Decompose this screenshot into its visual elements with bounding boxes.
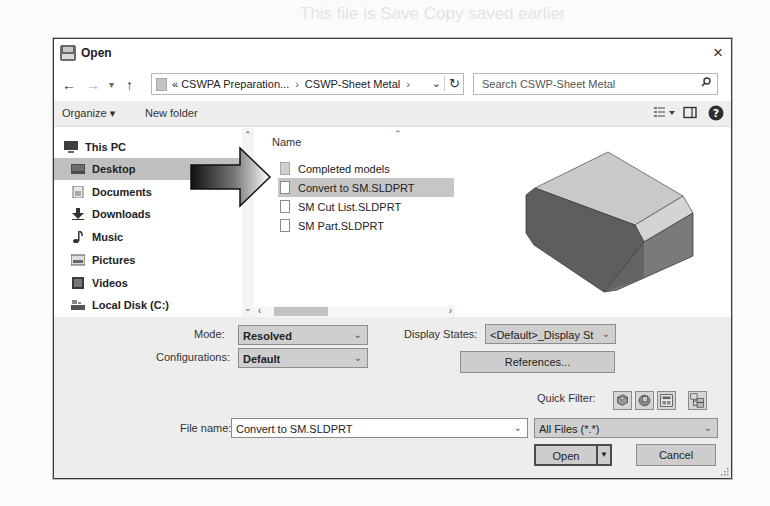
- search-box[interactable]: Search CSWP-Sheet Metal: [473, 73, 718, 95]
- file-name: Completed models: [298, 163, 390, 175]
- svg-text:?: ?: [713, 107, 719, 120]
- preview-pane-icon[interactable]: [683, 106, 697, 120]
- references-button[interactable]: References...: [460, 351, 615, 373]
- chevron-down-icon: ⌄: [354, 352, 362, 363]
- help-icon[interactable]: ?: [708, 105, 724, 121]
- file-name: SM Part.SLDPRT: [298, 220, 384, 232]
- music-icon: [71, 231, 85, 243]
- file-row-completed-models[interactable]: Completed models: [278, 159, 454, 178]
- close-button[interactable]: ×: [713, 43, 723, 63]
- scroll-left-icon[interactable]: ‹: [258, 305, 261, 316]
- chevron-down-icon: ⌄: [602, 328, 610, 339]
- configurations-value: Default: [243, 353, 280, 365]
- mode-value: Resolved: [243, 330, 292, 342]
- nav-item-videos[interactable]: Videos: [54, 272, 242, 294]
- display-states-value: <Default>_Display St: [490, 329, 593, 341]
- breadcrumb-separator[interactable]: ›: [295, 78, 299, 90]
- dialog-title: Open: [81, 46, 112, 60]
- filter-drawings-icon[interactable]: [657, 391, 676, 410]
- navigation-bar: ← → ▾ ↑ « CSWPA Preparation...›CSWP-Shee…: [54, 69, 731, 101]
- file-row-sm-cut-list[interactable]: SM Cut List.SLDPRT: [278, 197, 454, 216]
- pictures-icon: [71, 254, 85, 266]
- folder-icon: [156, 78, 167, 91]
- back-button[interactable]: ←: [62, 77, 76, 93]
- chevron-down-icon[interactable]: ⌄: [514, 422, 522, 433]
- folder-icon: [280, 162, 290, 175]
- file-name-input[interactable]: Convert to SM.SLDPRT ⌄: [231, 418, 528, 438]
- filter-top-level-assemblies-icon[interactable]: [688, 391, 707, 410]
- chevron-down-icon: ⌄: [354, 329, 362, 340]
- nav-item-label: Documents: [92, 186, 152, 198]
- background-text: This file is Save Copy saved earlier: [300, 4, 566, 24]
- scroll-down-icon[interactable]: ⌄: [244, 303, 252, 313]
- part-file-icon: [280, 219, 290, 232]
- drive-icon: [71, 299, 85, 311]
- breadcrumb-item-current[interactable]: CSWP-Sheet Metal: [305, 78, 400, 90]
- videos-icon: [71, 277, 85, 289]
- part-preview-image: [454, 128, 731, 317]
- scrollbar-thumb[interactable]: [274, 307, 328, 316]
- solidworks-app-icon: [60, 45, 76, 61]
- nav-item-label: Local Disk (C:): [92, 299, 169, 311]
- preview-pane: [454, 128, 731, 317]
- part-file-icon: [280, 181, 290, 194]
- breadcrumb: « CSWPA Preparation...›CSWP-Sheet Metal›: [172, 78, 416, 90]
- view-options-icon[interactable]: [654, 106, 676, 120]
- filter-assemblies-icon[interactable]: [635, 391, 654, 410]
- part-file-icon: [280, 200, 290, 213]
- file-type-value: All Files (*.*): [539, 423, 600, 435]
- file-name: SM Cut List.SLDPRT: [298, 201, 401, 213]
- title-bar: Open ×: [54, 39, 731, 67]
- open-button-label: Open: [536, 446, 596, 466]
- search-icon[interactable]: [701, 77, 711, 87]
- open-options-dropdown[interactable]: ▼: [596, 446, 610, 464]
- chevron-down-icon: ⌄: [704, 422, 712, 433]
- open-file-dialog: Open × ← → ▾ ↑ « CSWPA Preparation...›CS…: [53, 38, 732, 479]
- new-folder-button[interactable]: New folder: [145, 107, 198, 119]
- sort-ascending-icon: ⌃: [394, 129, 402, 139]
- file-list: ⌃ Name Completed models Convert to SM.SL…: [254, 128, 454, 317]
- cancel-button[interactable]: Cancel: [636, 444, 716, 466]
- file-name-value[interactable]: Convert to SM.SLDPRT: [236, 423, 353, 435]
- nav-item-label: Videos: [92, 277, 128, 289]
- up-button[interactable]: ↑: [126, 77, 133, 93]
- organize-menu[interactable]: Organize ▾: [62, 107, 115, 120]
- breadcrumb-separator[interactable]: ›: [406, 78, 410, 90]
- address-bar[interactable]: « CSWPA Preparation...›CSWP-Sheet Metal›…: [151, 73, 464, 95]
- nav-item-label: This PC: [85, 141, 126, 153]
- desktop-icon: [71, 163, 85, 175]
- file-row-sm-part[interactable]: SM Part.SLDPRT: [278, 216, 454, 235]
- forward-button[interactable]: →: [86, 77, 100, 93]
- computer-icon: [64, 141, 78, 153]
- configurations-label: Configurations:: [156, 351, 230, 363]
- nav-item-pictures[interactable]: Pictures: [54, 249, 242, 271]
- file-type-dropdown[interactable]: All Files (*.*) ⌄: [534, 418, 718, 438]
- annotation-arrow-icon: [190, 146, 272, 208]
- command-toolbar: Organize ▾ New folder ?: [54, 101, 731, 127]
- mode-label: Mode:: [194, 328, 225, 340]
- filter-parts-icon[interactable]: [613, 391, 632, 410]
- nav-item-music[interactable]: Music: [54, 226, 242, 248]
- open-button[interactable]: Open ▼: [534, 444, 612, 466]
- nav-item-local-disk[interactable]: Local Disk (C:): [54, 294, 242, 316]
- mode-dropdown[interactable]: Resolved ⌄: [238, 325, 368, 345]
- resize-grip-icon[interactable]: [721, 468, 729, 476]
- search-input[interactable]: Search CSWP-Sheet Metal: [482, 78, 615, 90]
- refresh-icon[interactable]: ↻: [444, 76, 460, 91]
- scroll-right-icon[interactable]: ›: [449, 305, 452, 316]
- download-icon: [71, 208, 85, 220]
- column-header-name[interactable]: Name: [272, 136, 301, 148]
- file-list-horizontal-scrollbar[interactable]: ‹ ›: [254, 306, 454, 317]
- file-name: Convert to SM.SLDPRT: [298, 182, 415, 194]
- breadcrumb-item-parent[interactable]: « CSWPA Preparation...: [172, 78, 289, 90]
- display-states-dropdown[interactable]: <Default>_Display St ⌄: [485, 324, 616, 344]
- scroll-up-icon[interactable]: ⌃: [244, 130, 252, 140]
- display-states-label: Display States:: [404, 328, 477, 340]
- file-row-convert-to-sm[interactable]: Convert to SM.SLDPRT: [278, 178, 454, 197]
- configurations-dropdown[interactable]: Default ⌄: [238, 348, 368, 368]
- nav-item-label: Pictures: [92, 254, 135, 266]
- quick-filter-label: Quick Filter:: [537, 392, 596, 404]
- recent-locations-button[interactable]: ▾: [109, 79, 114, 90]
- documents-icon: [71, 186, 85, 198]
- chevron-down-icon[interactable]: ⌄: [432, 77, 441, 90]
